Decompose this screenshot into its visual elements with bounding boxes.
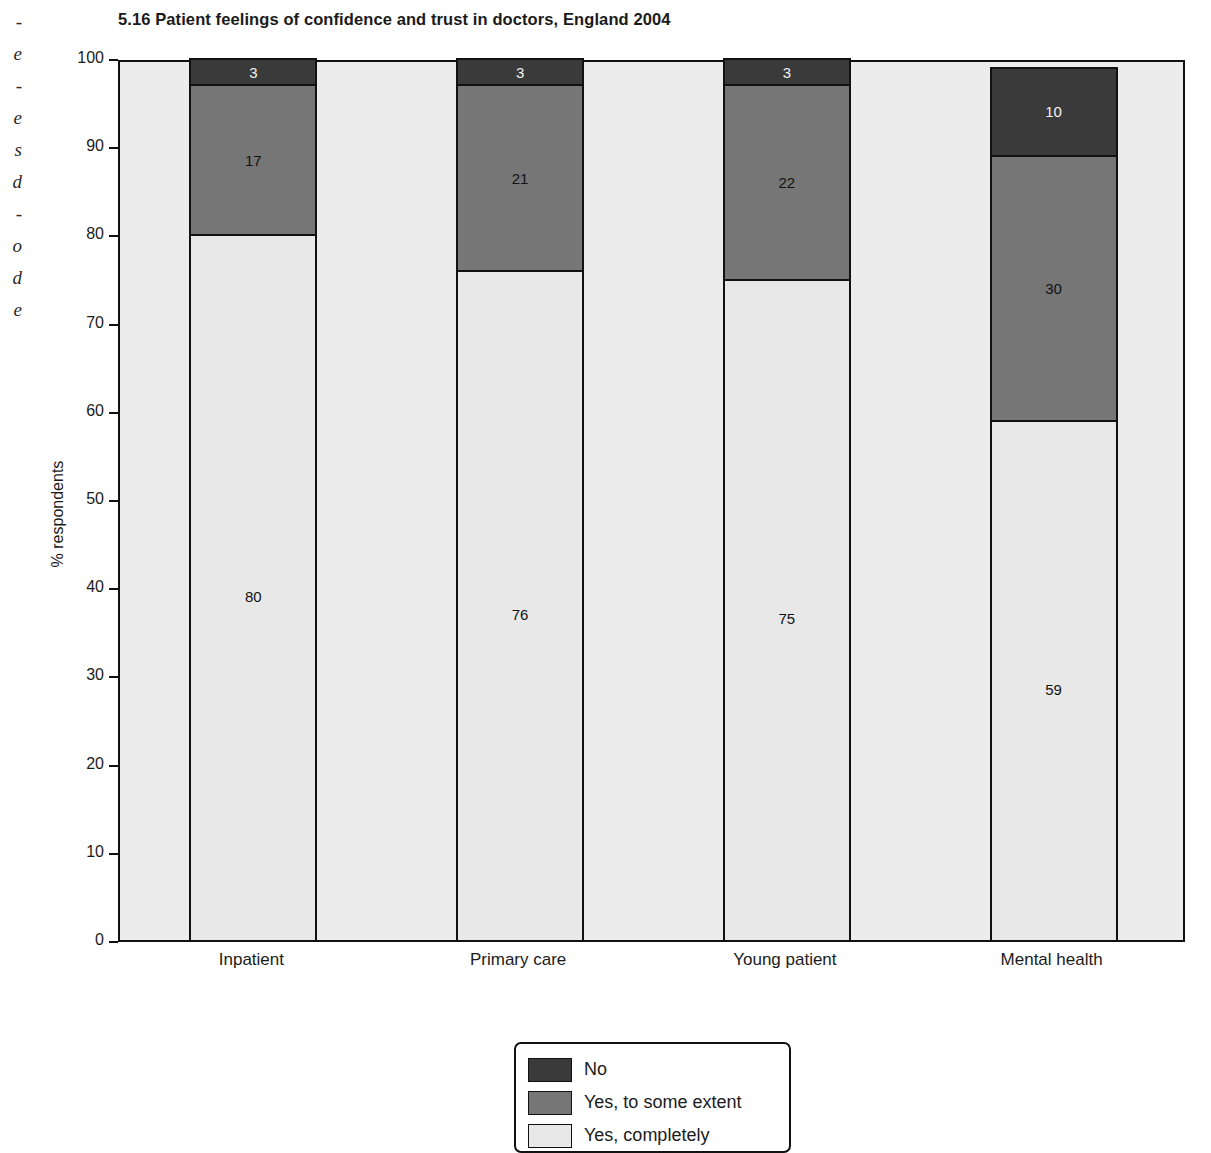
bar-segment[interactable]: 3 — [189, 58, 317, 84]
bar-segment[interactable]: 75 — [723, 279, 851, 941]
bar-segment-value: 22 — [779, 175, 796, 190]
y-tick-label: 70 — [58, 314, 104, 332]
bar-segment[interactable]: 17 — [189, 84, 317, 234]
y-tick-label: 100 — [58, 49, 104, 67]
x-category-label: Inpatient — [131, 950, 371, 970]
y-tick-label: 50 — [58, 490, 104, 508]
y-tick-mark — [109, 324, 118, 326]
bar-segment[interactable]: 3 — [723, 58, 851, 84]
y-tick-mark — [109, 147, 118, 149]
bar-segment-value: 3 — [783, 65, 791, 80]
legend-item[interactable]: Yes, completely — [528, 1119, 789, 1152]
chart-title: 5.16 Patient feelings of confidence and … — [118, 10, 671, 29]
y-tick-label: 10 — [58, 843, 104, 861]
y-tick-mark — [109, 765, 118, 767]
bar-segment[interactable]: 30 — [990, 155, 1118, 420]
bar-primary-care[interactable]: 76213 — [456, 58, 584, 940]
y-tick-label: 30 — [58, 666, 104, 684]
bar-segment-value: 30 — [1045, 281, 1062, 296]
bar-segment-value: 80 — [245, 589, 262, 604]
bar-segment-value: 75 — [779, 611, 796, 626]
bar-segment[interactable]: 22 — [723, 84, 851, 278]
legend-swatch — [528, 1091, 572, 1115]
legend-item[interactable]: No — [528, 1053, 789, 1086]
y-tick-label: 80 — [58, 225, 104, 243]
legend-swatch — [528, 1124, 572, 1148]
bar-segment[interactable]: 10 — [990, 67, 1118, 155]
bar-segment-value: 3 — [516, 65, 524, 80]
bar-segment-value: 17 — [245, 153, 262, 168]
y-tick-mark — [109, 500, 118, 502]
y-tick-mark — [109, 941, 118, 943]
bar-segment[interactable]: 21 — [456, 84, 584, 269]
bar-segment-value: 10 — [1045, 104, 1062, 119]
x-category-label: Mental health — [932, 950, 1172, 970]
y-tick-label: 20 — [58, 755, 104, 773]
legend-swatch — [528, 1058, 572, 1082]
y-tick-mark — [109, 676, 118, 678]
bar-young-patient[interactable]: 75223 — [723, 58, 851, 940]
x-category-label: Primary care — [398, 950, 638, 970]
page-margin-text: - e - e s d - o d e — [0, 6, 22, 326]
bar-mental-health[interactable]: 593010 — [990, 58, 1118, 940]
y-tick-label: 90 — [58, 137, 104, 155]
legend-label: Yes, to some extent — [584, 1092, 741, 1113]
x-category-label: Young patient — [665, 950, 905, 970]
bar-segment[interactable]: 80 — [189, 234, 317, 940]
legend-label: No — [584, 1059, 607, 1080]
bar-segment-value: 21 — [512, 171, 529, 186]
bar-segment-value: 76 — [512, 607, 529, 622]
y-tick-label: 0 — [58, 931, 104, 949]
y-tick-mark — [109, 235, 118, 237]
y-tick-label: 40 — [58, 578, 104, 596]
bar-segment[interactable]: 76 — [456, 270, 584, 940]
bar-segment[interactable]: 59 — [990, 420, 1118, 940]
legend-label: Yes, completely — [584, 1125, 709, 1146]
bar-inpatient[interactable]: 80173 — [189, 58, 317, 940]
y-tick-mark — [109, 412, 118, 414]
y-tick-mark — [109, 59, 118, 61]
bar-segment[interactable]: 3 — [456, 58, 584, 84]
y-tick-mark — [109, 853, 118, 855]
bar-segment-value: 3 — [249, 65, 257, 80]
y-tick-mark — [109, 588, 118, 590]
legend-item[interactable]: Yes, to some extent — [528, 1086, 789, 1119]
y-tick-label: 60 — [58, 402, 104, 420]
chart-legend: NoYes, to some extentYes, completely — [514, 1042, 791, 1153]
bars-container: 801737621375223593010 — [120, 62, 1183, 940]
bar-segment-value: 59 — [1045, 682, 1062, 697]
plot-area: 801737621375223593010 — [118, 60, 1185, 942]
